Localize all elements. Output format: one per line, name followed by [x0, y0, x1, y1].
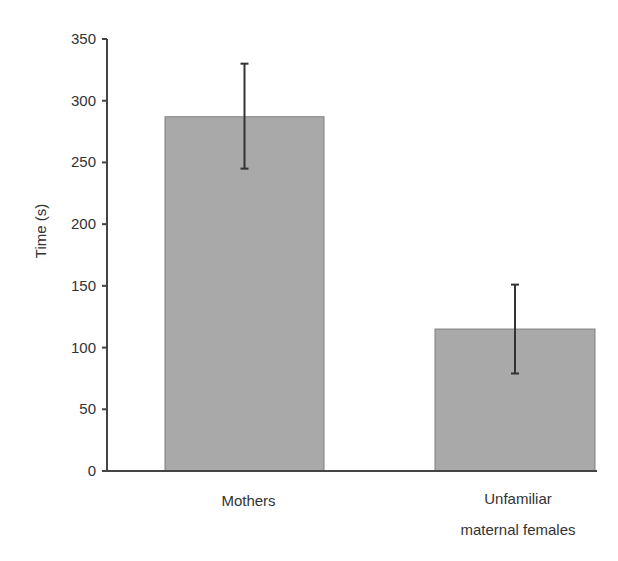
- x-axis: MothersUnfamiliarmaternal females: [102, 471, 597, 538]
- y-tick-label: 100: [71, 339, 96, 356]
- y-axis: 050100150200250300350: [71, 30, 107, 479]
- y-tick-label: 150: [71, 277, 96, 294]
- x-category-label: Unfamiliar: [484, 490, 552, 507]
- y-axis-title: Time (s): [32, 204, 49, 258]
- bar-0: [165, 117, 324, 471]
- bars-group: [165, 117, 595, 471]
- y-tick-label: 200: [71, 215, 96, 232]
- bar-chart: 050100150200250300350 MothersUnfamiliarm…: [0, 0, 618, 561]
- y-tick-label: 250: [71, 153, 96, 170]
- x-category-label: Mothers: [221, 492, 275, 509]
- x-category-label: maternal females: [460, 521, 575, 538]
- y-tick-label: 0: [88, 462, 96, 479]
- y-tick-label: 50: [79, 400, 96, 417]
- y-tick-label: 300: [71, 92, 96, 109]
- y-tick-label: 350: [71, 30, 96, 47]
